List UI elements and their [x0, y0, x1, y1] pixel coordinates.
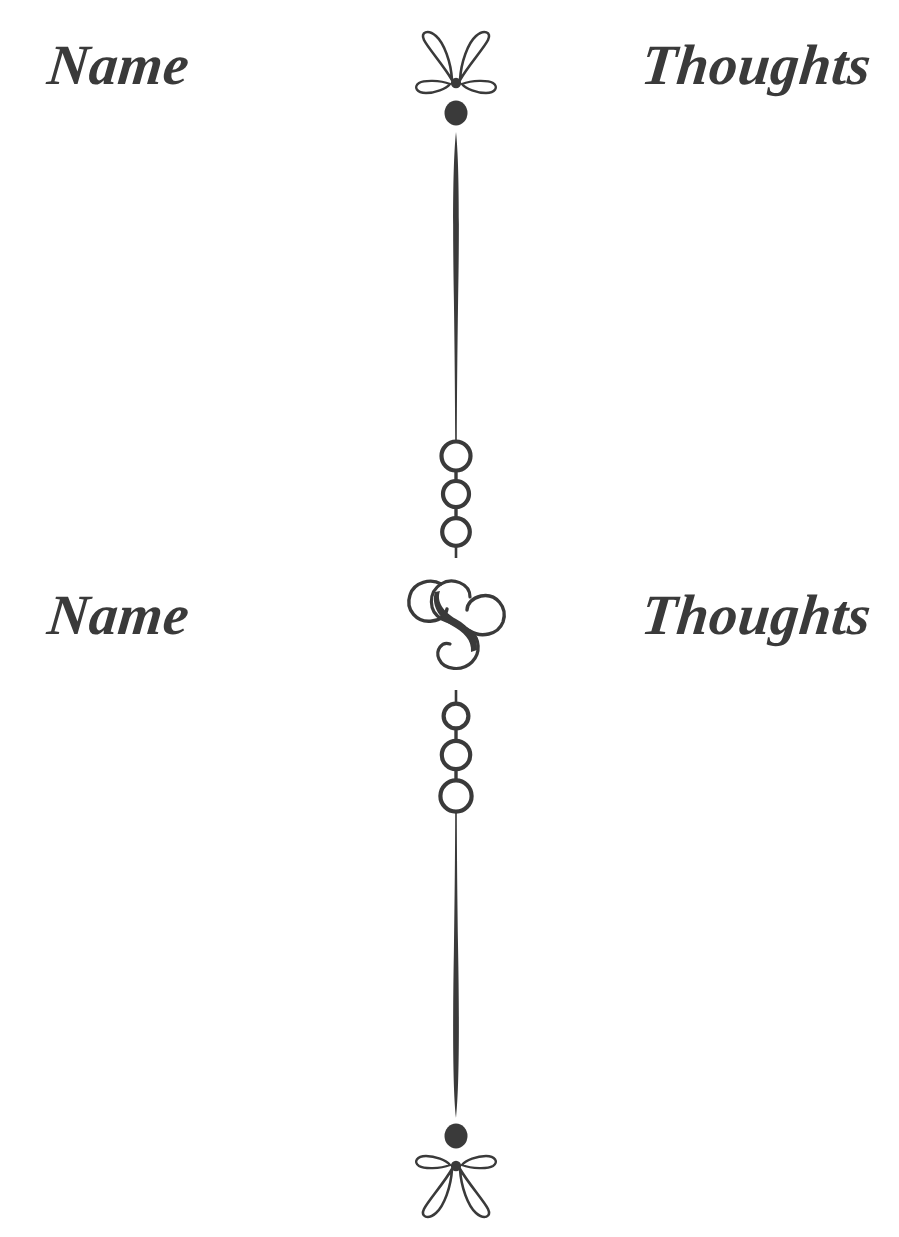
ring-upper-1-icon: [442, 442, 471, 471]
tapered-stem-upper: [453, 132, 459, 441]
ring-upper-3-icon: [442, 518, 470, 546]
label-name-top: Name: [45, 36, 381, 93]
ring-lower-3-icon: [440, 780, 471, 811]
bead-dot-top-icon: [445, 101, 468, 126]
ring-triplet-upper: [442, 442, 471, 559]
ring-triplet-lower: [440, 690, 471, 812]
s-scroll-flourish-icon: [409, 581, 504, 668]
ring-lower-2-icon: [442, 741, 470, 769]
tapered-stem-lower: [453, 812, 459, 1118]
flower-ornament-top-icon: [416, 32, 496, 93]
ornamental-page: Name Thoughts Name Thoughts: [0, 0, 899, 1237]
label-thoughts-top: Thoughts: [538, 36, 874, 93]
flower-center-dot-top-icon: [451, 78, 461, 88]
bead-dot-bottom-icon: [445, 1124, 468, 1149]
flower-center-dot-bottom-icon: [451, 1161, 461, 1171]
ring-upper-2-icon: [443, 481, 469, 507]
label-name-middle: Name: [45, 586, 381, 643]
flower-ornament-bottom-icon: [416, 1156, 496, 1217]
ring-lower-1-icon: [444, 704, 469, 729]
label-thoughts-middle: Thoughts: [538, 586, 874, 643]
